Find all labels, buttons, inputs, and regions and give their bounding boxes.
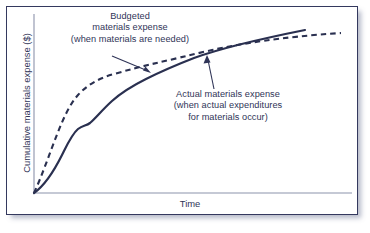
annotation-actual: Actual materials expense (when actual ex… (148, 89, 308, 123)
annotation-actual-line3: for materials occur) (148, 112, 308, 123)
chart-figure: Budgeted materials expense (when materia… (0, 0, 370, 233)
annotation-budgeted-line1: Budgeted (55, 11, 205, 22)
annotation-actual-line2: (when actual expenditures (148, 100, 308, 111)
annotation-actual-line1: Actual materials expense (148, 89, 308, 100)
y-axis-label: Cumulative materials expense ($) (21, 13, 32, 193)
x-axis-label: Time (150, 198, 230, 209)
annotation-budgeted-line3: (when materials are needed) (55, 34, 205, 45)
annotation-budgeted-line2: materials expense (55, 22, 205, 33)
annotation-budgeted: Budgeted materials expense (when materia… (55, 11, 205, 45)
y-axis-label-container: Cumulative materials expense ($) (21, 13, 35, 193)
